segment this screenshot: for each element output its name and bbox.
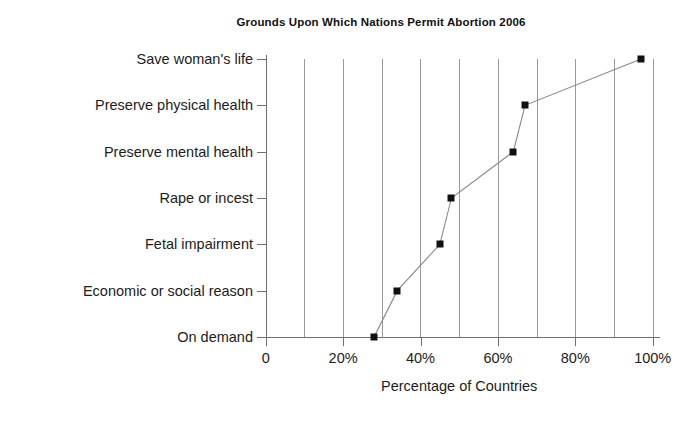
category-label-3: Rape or incest bbox=[0, 191, 253, 206]
x-axis-tick bbox=[575, 337, 576, 346]
gridline bbox=[653, 59, 654, 337]
x-tick-label-2: 40% bbox=[406, 351, 435, 366]
gridline bbox=[537, 59, 538, 337]
category-label-5: Economic or social reason bbox=[0, 284, 253, 299]
gridline bbox=[498, 59, 499, 337]
x-tick-label-4: 80% bbox=[561, 351, 590, 366]
gridline bbox=[614, 59, 615, 337]
y-axis-tick bbox=[257, 59, 266, 60]
y-axis-tick bbox=[257, 291, 266, 292]
x-tick-label-0: 0 bbox=[262, 351, 270, 366]
category-label-2: Preserve mental health bbox=[0, 145, 253, 160]
data-point-5 bbox=[394, 287, 401, 294]
data-point-3 bbox=[448, 194, 455, 201]
gridline bbox=[343, 59, 344, 337]
x-axis-line bbox=[257, 337, 660, 338]
x-axis-tick bbox=[266, 337, 267, 346]
x-axis-tick bbox=[653, 337, 654, 346]
y-axis-tick bbox=[257, 152, 266, 153]
y-axis-tick bbox=[257, 105, 266, 106]
gridline bbox=[382, 59, 383, 337]
category-label-4: Fetal impairment bbox=[0, 237, 253, 252]
gridline bbox=[459, 59, 460, 337]
y-axis-tick-labels: Save woman's lifePreserve physical healt… bbox=[0, 0, 253, 426]
x-tick-label-1: 20% bbox=[329, 351, 358, 366]
chart-figure: Grounds Upon Which Nations Permit Aborti… bbox=[0, 0, 690, 426]
x-tick-label-5: 100% bbox=[634, 351, 671, 366]
x-axis-tick bbox=[343, 337, 344, 346]
data-point-0 bbox=[638, 56, 645, 63]
gridline bbox=[575, 59, 576, 337]
data-point-4 bbox=[436, 241, 443, 248]
y-axis-tick bbox=[257, 198, 266, 199]
x-axis-title: Percentage of Countries bbox=[266, 378, 653, 394]
category-label-0: Save woman's life bbox=[0, 52, 253, 67]
x-tick-label-3: 60% bbox=[483, 351, 512, 366]
data-point-2 bbox=[510, 148, 517, 155]
data-point-6 bbox=[371, 333, 378, 340]
x-axis-tick bbox=[421, 337, 422, 346]
gridline bbox=[304, 59, 305, 337]
y-axis-tick bbox=[257, 337, 266, 338]
plot-area bbox=[266, 59, 653, 337]
x-axis-tick bbox=[498, 337, 499, 346]
data-point-1 bbox=[521, 102, 528, 109]
gridline bbox=[420, 59, 421, 337]
category-label-1: Preserve physical health bbox=[0, 98, 253, 113]
y-axis-tick bbox=[257, 244, 266, 245]
category-label-6: On demand bbox=[0, 330, 253, 345]
